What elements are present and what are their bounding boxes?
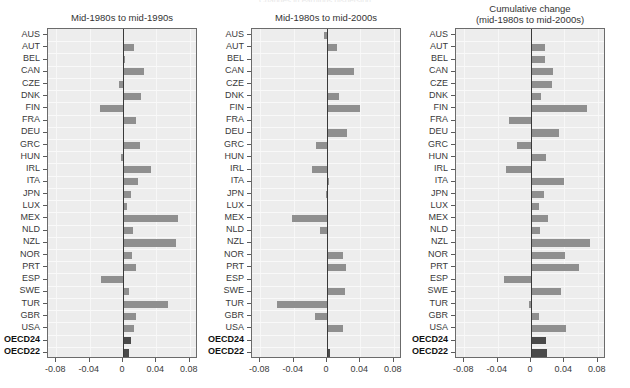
horizontal-gridline [48,90,196,91]
y-axis-tick [43,254,47,255]
y-axis-tick [247,71,251,72]
horizontal-gridline [456,139,604,140]
horizontal-gridline [48,212,196,213]
y-axis-tick [451,59,455,60]
y-axis-tick [43,156,47,157]
horizontal-gridline [252,127,400,128]
y-axis-label-dnk: DNK [207,91,244,100]
y-axis-label-nzl: NZL [411,237,448,246]
bar-usa [123,325,134,332]
y-axis-label-cze: CZE [207,79,244,88]
horizontal-gridline [252,200,400,201]
y-axis-tick [247,181,251,182]
x-axis-tick [530,358,531,362]
y-axis-tick [247,144,251,145]
bar-jpn [123,191,131,198]
y-axis-label-nld: NLD [3,225,40,234]
y-axis-label-usa: USA [411,323,448,332]
bar-deu [327,129,347,136]
y-axis-label-aus: AUS [411,30,448,39]
y-axis-label-tur: TUR [207,299,244,308]
horizontal-gridline [252,163,400,164]
horizontal-gridline [48,347,196,348]
y-axis-label-mex: MEX [411,213,448,222]
bar-can [123,68,144,75]
horizontal-gridline [456,151,604,152]
y-axis-label-usa: USA [3,323,40,332]
bar-irl [506,166,531,173]
y-axis-tick [247,315,251,316]
bar-can [531,68,553,75]
bar-bel [531,56,545,63]
y-axis-tick [247,217,251,218]
bar-dnk [123,93,141,100]
bar-swe [531,288,561,295]
y-axis-tick [451,95,455,96]
horizontal-gridline [252,347,400,348]
y-axis-tick [43,169,47,170]
y-axis-tick [451,144,455,145]
y-axis-label-jpn: JPN [411,189,448,198]
y-axis-tick [43,279,47,280]
horizontal-gridline [252,66,400,67]
y-axis-tick [247,59,251,60]
horizontal-gridline [252,41,400,42]
horizontal-gridline [456,127,604,128]
horizontal-gridline [252,151,400,152]
y-axis-tick [247,279,251,280]
y-axis-tick [247,120,251,121]
y-axis-tick [451,217,455,218]
y-axis-tick [43,315,47,316]
y-axis-tick [247,303,251,304]
y-axis-label-swe: SWE [411,286,448,295]
bar-grc [517,142,531,149]
bar-oecd24 [531,337,546,344]
horizontal-gridline [456,102,604,103]
y-axis-label-can: CAN [411,66,448,75]
plot-area [251,28,401,358]
bar-prt [531,264,579,271]
horizontal-gridline [252,335,400,336]
y-axis-tick [451,71,455,72]
y-axis-label-oecd24: OECD24 [411,335,448,344]
y-axis-label-can: CAN [207,66,244,75]
y-axis-tick [451,230,455,231]
y-axis-label-swe: SWE [3,286,40,295]
figure-root: Changes in earnings dispersion Mid-1980s… [0,0,630,388]
horizontal-gridline [456,286,604,287]
x-axis-tick [326,358,327,362]
y-axis-label-nld: NLD [411,225,448,234]
y-axis-label-oecd22: OECD22 [411,347,448,356]
horizontal-gridline [252,115,400,116]
y-axis-tick [451,34,455,35]
bar-mex [123,215,178,222]
y-axis-label-lux: LUX [207,201,244,210]
y-axis-label-deu: DEU [3,127,40,136]
horizontal-gridline [456,41,604,42]
y-axis-tick [247,230,251,231]
horizontal-gridline [48,237,196,238]
y-axis-tick [451,205,455,206]
horizontal-gridline [456,249,604,250]
y-axis-label-hun: HUN [3,152,40,161]
y-axis-tick [451,120,455,121]
y-axis-tick [451,327,455,328]
y-axis-tick [451,242,455,243]
bar-nld [123,227,133,234]
y-axis-tick [43,205,47,206]
horizontal-gridline [456,90,604,91]
bar-aut [531,44,545,51]
horizontal-gridline [48,261,196,262]
bar-irl [123,166,151,173]
horizontal-gridline [252,102,400,103]
y-axis-tick [43,242,47,243]
horizontal-gridline [456,261,604,262]
bar-dnk [327,93,339,100]
bar-mex [531,215,548,222]
y-axis-tick [451,279,455,280]
y-axis-label-usa: USA [207,323,244,332]
y-axis-label-bel: BEL [207,54,244,63]
y-axis-label-irl: IRL [411,164,448,173]
zero-line [531,29,532,357]
bar-fin [531,105,587,112]
